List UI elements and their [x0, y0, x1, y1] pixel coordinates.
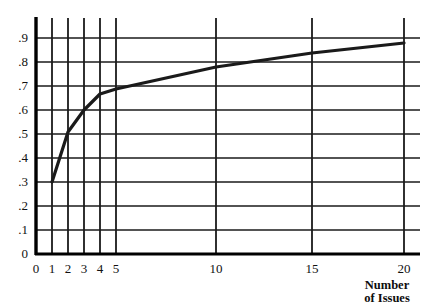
y-tick-label-07: .7: [6, 79, 28, 92]
y-tick-label-09: .9: [6, 31, 28, 44]
x-tick-label-10: 10: [204, 262, 228, 275]
y-tick-label-02: .2: [6, 199, 28, 212]
x-tick-label-5: 5: [106, 262, 126, 275]
y-tick-label-08: .8: [6, 55, 28, 68]
y-tick-label-00: 0: [6, 247, 28, 260]
chart-background: [0, 0, 429, 304]
x-axis-title-line1: Number: [348, 278, 426, 292]
y-tick-label-04: .4: [6, 151, 28, 164]
y-tick-label-01: .1: [6, 223, 28, 236]
chart-figure: .9 .8 .7 .6 .5 .4 .3 .2 .1 0 0 1 2 3 4 5…: [0, 0, 429, 304]
y-tick-label-06: .6: [6, 103, 28, 116]
chart-plot-area: [0, 0, 429, 304]
x-axis-title-line2: of Issues: [348, 291, 426, 304]
y-tick-label-03: .3: [6, 175, 28, 188]
x-tick-label-20: 20: [392, 262, 416, 275]
y-tick-label-05: .5: [6, 127, 28, 140]
x-tick-label-15: 15: [300, 262, 324, 275]
